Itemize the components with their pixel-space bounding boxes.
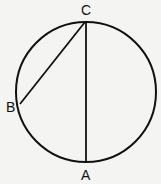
geometry-diagram: C B A: [0, 0, 161, 184]
point-label-c: C: [81, 2, 91, 18]
point-label-b: B: [6, 99, 15, 115]
point-label-a: A: [81, 167, 91, 183]
chord-cb: [20, 22, 85, 104]
